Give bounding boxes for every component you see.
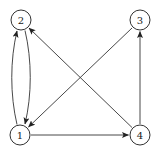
node-4-label: 4	[137, 130, 143, 141]
edge-2-to-1	[25, 31, 30, 125]
node-2: 2	[11, 10, 31, 30]
node-3-label: 3	[137, 15, 143, 26]
node-2-label: 2	[18, 15, 24, 26]
node-3: 3	[130, 10, 150, 30]
node-4: 4	[130, 125, 150, 145]
node-1-label: 1	[17, 130, 23, 141]
graph-canvas: 1 2 3 4	[0, 0, 159, 152]
edge-1-to-2	[12, 31, 17, 125]
node-1: 1	[10, 125, 30, 145]
